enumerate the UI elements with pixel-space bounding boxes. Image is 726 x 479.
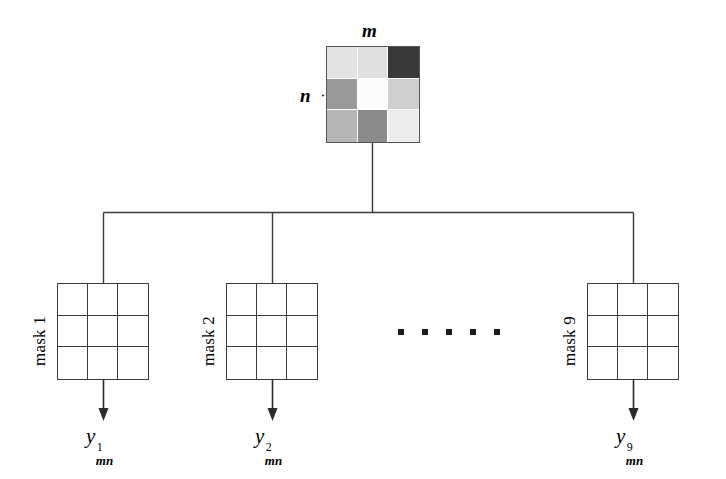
source-cell-r3c1 <box>327 110 358 142</box>
mask-cell <box>88 347 118 379</box>
mask-grid-1 <box>57 283 149 380</box>
mask-cell <box>257 284 287 316</box>
mask-cell <box>287 284 317 316</box>
dot-icon <box>446 329 452 335</box>
mask-cell <box>287 347 317 379</box>
mask-grid-9 <box>587 283 679 380</box>
source-cell-r1c3 <box>388 47 419 79</box>
dot-icon <box>422 329 428 335</box>
axis-label-m: m <box>362 20 377 42</box>
mask-cell <box>58 347 88 379</box>
source-cell-r2c3 <box>388 79 419 111</box>
mask-cell <box>588 316 618 348</box>
output-superscript-9: 9 <box>627 441 633 453</box>
mask-label-1: mask 1 <box>30 295 50 387</box>
mask-cell <box>58 316 88 348</box>
output-label-9: y9mn <box>616 424 643 467</box>
mask-cell <box>58 284 88 316</box>
mask-cell <box>287 316 317 348</box>
dot-icon <box>470 329 476 335</box>
dot-icon <box>494 329 500 335</box>
mask-grid-2 <box>226 283 318 380</box>
mask-cell <box>88 284 118 316</box>
output-label-2: y2mn <box>255 424 282 467</box>
source-pixel-grid <box>326 46 420 143</box>
output-subscript-9: mn <box>626 454 643 467</box>
continuation-dots <box>398 329 500 335</box>
output-arrowhead-9 <box>629 408 639 421</box>
output-arrowhead-2 <box>268 408 278 421</box>
mask-label-2: mask 2 <box>199 295 219 387</box>
output-base-9: y <box>616 424 625 448</box>
mask-cell <box>618 284 648 316</box>
mask-cell <box>88 316 118 348</box>
output-base-2: y <box>255 424 264 448</box>
mask-cell <box>648 316 678 348</box>
output-label-1: y1mn <box>86 424 113 467</box>
source-cell-r1c2 <box>358 47 389 79</box>
output-superscript-2: 2 <box>266 441 272 453</box>
mask-cell <box>588 284 618 316</box>
mask-cell <box>648 347 678 379</box>
output-arrowhead-1 <box>99 408 109 421</box>
source-cell-r2c2 <box>358 79 389 111</box>
source-cell-r3c2 <box>358 110 389 142</box>
output-subscript-1: mn <box>96 454 113 467</box>
mask-cell <box>257 316 287 348</box>
axis-label-n: n <box>300 85 311 107</box>
source-cell-r3c3 <box>388 110 419 142</box>
mask-cell <box>618 316 648 348</box>
mask-cell <box>227 284 257 316</box>
dot-icon <box>398 329 404 335</box>
mask-cell <box>118 284 148 316</box>
mask-cell <box>118 347 148 379</box>
mask-cell <box>257 347 287 379</box>
source-cell-r2c1 <box>327 79 358 111</box>
output-subscript-2: mn <box>265 454 282 467</box>
source-cell-r1c1 <box>327 47 358 79</box>
mask-label-9: mask 9 <box>560 295 580 387</box>
mask-cell <box>227 316 257 348</box>
mask-cell <box>588 347 618 379</box>
mask-cell <box>618 347 648 379</box>
output-base-1: y <box>86 424 95 448</box>
mask-cell <box>118 316 148 348</box>
output-superscript-1: 1 <box>97 441 103 453</box>
mask-cell <box>227 347 257 379</box>
diagram-canvas: m n mask 1 mask 2 <box>0 0 726 479</box>
mask-cell <box>648 284 678 316</box>
